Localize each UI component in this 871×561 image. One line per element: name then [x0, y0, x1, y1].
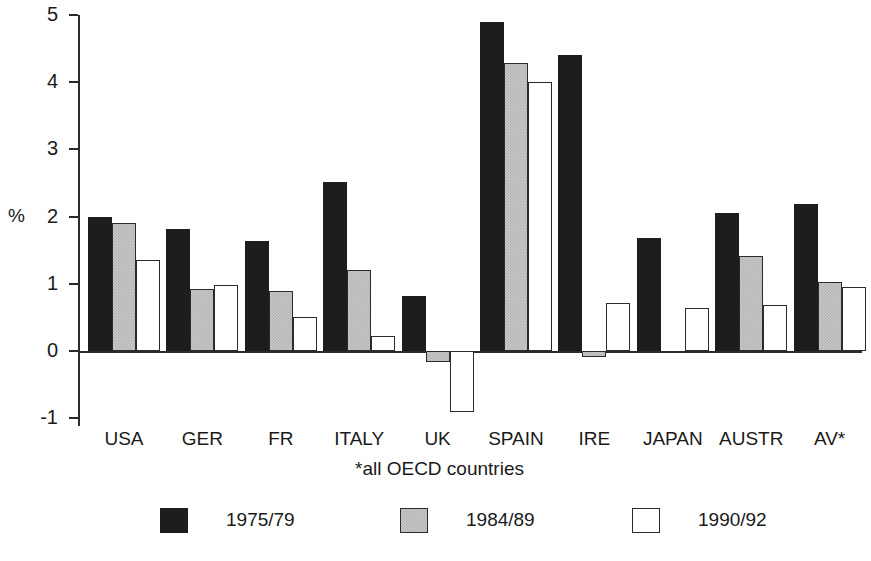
legend-label: 1975/79	[226, 509, 295, 531]
bar-USA-1990-92	[136, 260, 160, 351]
bar-FR-1990-92	[293, 317, 317, 351]
legend-label: 1984/89	[466, 509, 535, 531]
bar-AV-1990-92	[842, 287, 866, 351]
bar-AV-1975-79	[794, 204, 818, 351]
y-tick-2	[69, 216, 78, 218]
chart-legend: 1975/791984/891990/92	[0, 505, 871, 545]
y-tick-label-3: 3	[18, 138, 58, 158]
bar-AUSTR-1984-89	[739, 256, 763, 351]
bar-IRE-1990-92	[606, 303, 630, 351]
bar-GER-1990-92	[214, 285, 238, 351]
bar-AUSTR-1975-79	[715, 213, 739, 351]
y-axis-line	[78, 15, 80, 426]
legend-label: 1990/92	[698, 509, 767, 531]
y-tick-4	[69, 81, 78, 83]
legend-swatch-black	[160, 508, 188, 533]
bar-USA-1984-89	[112, 223, 136, 351]
y-tick-1	[69, 283, 78, 285]
bar-ITALY-1984-89	[347, 270, 371, 351]
y-tick-label-4: 4	[18, 71, 58, 91]
bar-SPAIN-1975-79	[480, 22, 504, 351]
bar-ITALY-1990-92	[371, 336, 395, 351]
bar-AV-1984-89	[818, 282, 842, 351]
bar-SPAIN-1984-89	[504, 63, 528, 351]
bar-JAPAN-1990-92	[685, 308, 709, 351]
bar-GER-1984-89	[190, 289, 214, 351]
bar-IRE-1975-79	[558, 55, 582, 351]
bar-JAPAN-1975-79	[637, 238, 661, 351]
y-tick-label-2: 2	[18, 206, 58, 226]
x-label-AV: AV*	[780, 428, 871, 450]
bar-IRE-1984-89	[582, 351, 606, 357]
bar-ITALY-1975-79	[323, 182, 347, 351]
bar-FR-1984-89	[269, 291, 293, 351]
y-tick-label-5: 5	[18, 4, 58, 24]
y-tick-label--1: -1	[18, 407, 58, 427]
y-tick-label-0: 0	[18, 340, 58, 360]
bar-UK-1984-89	[426, 351, 450, 362]
footnote: *all OECD countries	[355, 458, 524, 480]
y-tick-5	[69, 14, 78, 16]
bar-AUSTR-1990-92	[763, 305, 787, 351]
bar-USA-1975-79	[88, 217, 112, 351]
legend-swatch-gray	[400, 508, 428, 533]
y-tick-0	[69, 350, 78, 352]
bar-UK-1975-79	[402, 296, 426, 351]
legend-swatch-white	[632, 508, 660, 533]
bar-UK-1990-92	[450, 351, 474, 412]
y-tick--1	[69, 417, 78, 419]
bar-GER-1975-79	[166, 229, 190, 351]
bar-SPAIN-1990-92	[528, 82, 552, 351]
bar-FR-1975-79	[245, 241, 269, 351]
y-tick-3	[69, 148, 78, 150]
plot-area: -1012345	[78, 8, 862, 426]
y-tick-label-1: 1	[18, 273, 58, 293]
bar-chart: % -1012345 USAGERFRITALYUKSPAINIREJAPANA…	[0, 0, 871, 561]
